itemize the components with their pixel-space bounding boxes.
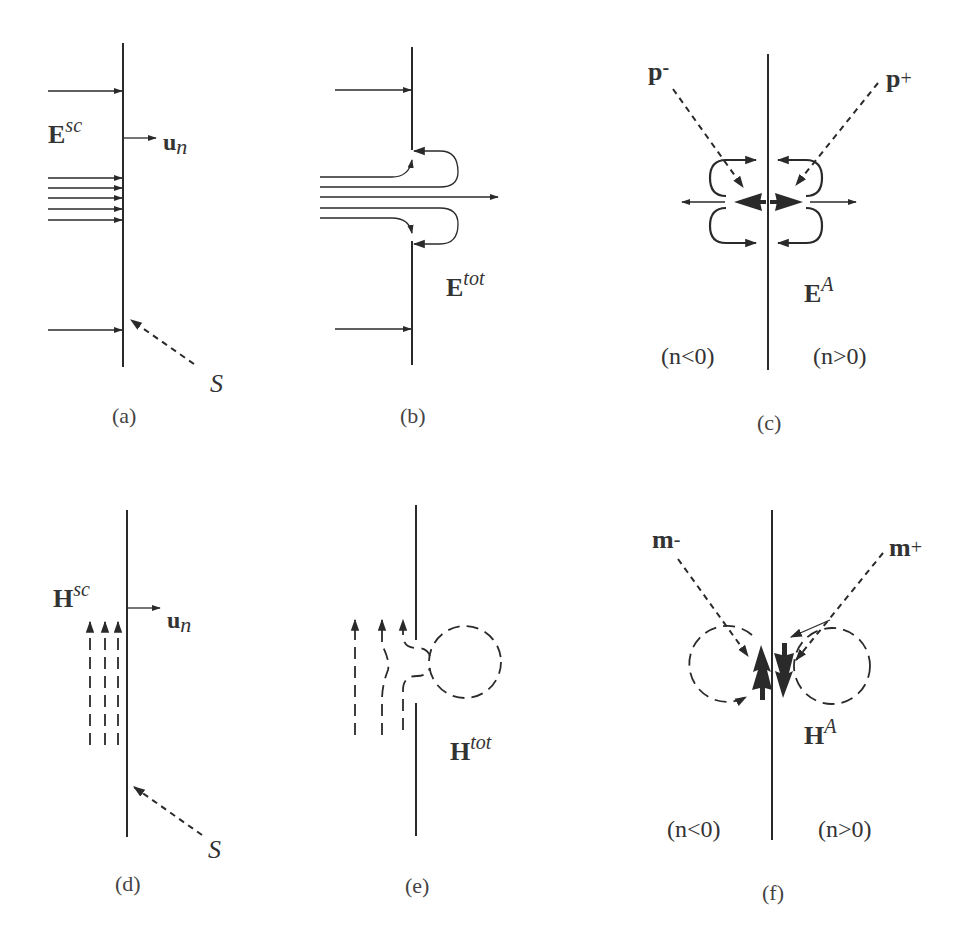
caption-f: (f)	[762, 880, 784, 905]
dipole-pointer-right	[796, 553, 883, 660]
region-label-left: (n<0)	[667, 816, 721, 842]
normal-label: un	[163, 129, 187, 159]
surface-pointer-arrow	[134, 787, 202, 835]
panel-c: p- p+ EA (n<0) (n>0) (c)	[648, 54, 912, 435]
region-label-right: (n>0)	[818, 816, 872, 842]
field-label: EA	[804, 273, 834, 308]
region-label-right: (n>0)	[813, 343, 867, 369]
caption-d: (d)	[115, 871, 141, 896]
total-field-lines	[320, 151, 498, 244]
field-label: HA	[804, 715, 837, 750]
field-label: Etot	[446, 267, 485, 302]
panel-f: m- m+ HA (n<0) (n>0) (f)	[652, 510, 922, 905]
dipole-pointer-right	[796, 83, 878, 185]
caption-c: (c)	[757, 410, 781, 435]
caption-b: (b)	[400, 403, 426, 428]
dipole-label-right: m+	[889, 533, 922, 562]
surface-label: S	[208, 835, 221, 864]
dipole-label-right: p+	[886, 64, 912, 93]
field-label: Hsc	[53, 578, 90, 613]
caption-a: (a)	[112, 403, 136, 428]
region-label-left: (n<0)	[661, 343, 715, 369]
incident-h-field-arrows	[90, 622, 118, 745]
panel-e: Htot (e)	[355, 505, 501, 898]
panel-d: Hsc un S (d)	[53, 510, 221, 896]
dipole-pointer-left	[678, 559, 748, 656]
field-label: Htot	[450, 731, 492, 766]
dipole-label-left: m-	[652, 525, 680, 554]
panel-a: Esc un S (a)	[48, 43, 223, 428]
figure-canvas: Esc un S (a) Etot (b)	[0, 0, 977, 943]
dipole-label-left: p-	[648, 56, 669, 86]
total-h-field-lines	[355, 620, 501, 735]
field-label: Esc	[48, 114, 82, 149]
surface-pointer-arrow	[131, 320, 194, 364]
dipole-pointer-left	[673, 89, 743, 187]
surface-label: S	[210, 369, 223, 398]
normal-label: un	[167, 607, 191, 637]
panel-b: Etot (b)	[320, 47, 498, 428]
caption-e: (e)	[405, 873, 429, 898]
